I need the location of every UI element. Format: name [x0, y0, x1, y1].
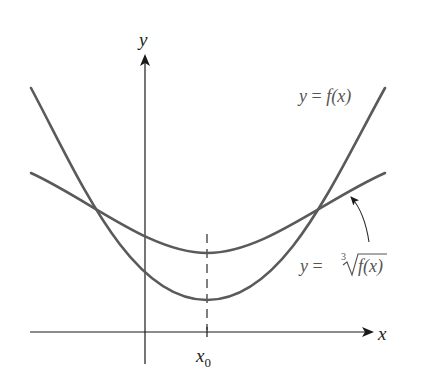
label-f: y = f(x) — [297, 86, 351, 107]
svg-text:y =: y = — [298, 256, 323, 276]
label-cube-root-func: f(x) — [358, 256, 383, 277]
annotation-arrow-icon — [351, 197, 369, 242]
curve-f — [31, 88, 385, 300]
radical-index: 3 — [341, 251, 346, 262]
diagram-canvas: y x x0 y = f(x) y = 3 f(x) — [0, 0, 425, 380]
y-axis-label: y — [137, 29, 148, 50]
x0-label: x0 — [195, 345, 211, 370]
diagram-figure: y x x0 y = f(x) y = 3 f(x) — [0, 0, 425, 380]
x0-subscript: 0 — [204, 355, 211, 370]
label-cube-root-f: y = 3 f(x) — [298, 251, 387, 277]
x-axis-label: x — [377, 323, 387, 344]
label-f-func: f(x) — [326, 86, 351, 107]
